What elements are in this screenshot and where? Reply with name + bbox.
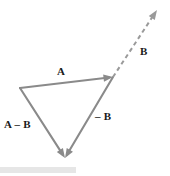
vector-b-shaft [113, 13, 155, 77]
vector-b-arrowhead [149, 10, 157, 20]
vector-diagram-figure: A A – B – B B [0, 0, 170, 176]
vector-diagram-canvas [0, 0, 170, 176]
vector-label-a-minus-b: A – B [4, 119, 31, 130]
vector-b-dashed [113, 10, 157, 77]
vector-a-minus-b-arrowhead [57, 148, 65, 158]
vector-minus-b-arrowhead [65, 148, 73, 158]
vector-a-shaft [20, 77, 109, 88]
vector-label-minus-b: – B [95, 111, 111, 122]
bottom-gray-bar [0, 167, 76, 173]
vector-label-a: A [57, 66, 65, 77]
vector-label-b: B [140, 46, 148, 57]
vector-a [20, 75, 113, 88]
